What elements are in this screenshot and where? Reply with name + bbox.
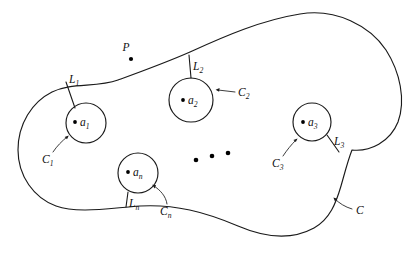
label-outer-boundary-c: C	[356, 204, 364, 216]
leader-line-c3	[283, 140, 296, 156]
leader-line-c-outer	[335, 199, 352, 209]
label-point-p: P	[121, 41, 129, 53]
ellipsis-dot-2	[210, 154, 215, 159]
label-cut-l3: L3	[333, 135, 344, 150]
center-dot-a1	[73, 120, 77, 124]
label-cut-l2: L2	[192, 60, 203, 75]
cut-line-ln	[126, 192, 128, 207]
label-center-a1: a1	[80, 116, 90, 131]
label-cut-l1: L1	[68, 73, 79, 88]
label-center-an: an	[133, 166, 143, 181]
outer-boundary-curve	[18, 13, 402, 236]
leader-line-cn	[154, 186, 167, 204]
center-dot-an	[126, 170, 130, 174]
ellipsis-dot-1	[194, 158, 199, 163]
center-dot-a3	[301, 120, 305, 124]
label-center-a3: a3	[308, 116, 318, 131]
point-p-marker	[129, 57, 133, 61]
label-cut-ln: Ln	[128, 197, 139, 212]
label-circle-c2: C2	[238, 86, 250, 101]
ellipsis-dots	[194, 151, 231, 163]
label-circle-c3: C3	[272, 157, 284, 172]
label-center-a2: a2	[188, 94, 198, 109]
center-dot-a2	[181, 98, 185, 102]
figure-container: P a1 L1 C1 a2 L2 C2 a3 L3 C3	[0, 0, 416, 254]
region-diagram: P a1 L1 C1 a2 L2 C2 a3 L3 C3	[0, 0, 416, 254]
cut-line-l2	[189, 55, 191, 78]
label-circle-c1: C1	[42, 153, 53, 168]
leader-line-c1	[53, 137, 67, 152]
arrowhead-c2	[216, 88, 220, 92]
ellipsis-dot-3	[226, 151, 231, 156]
leader-line-c2	[218, 90, 235, 92]
